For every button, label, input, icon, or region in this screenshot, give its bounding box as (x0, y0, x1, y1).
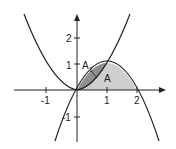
y-tick-label: 2 (66, 33, 72, 44)
y-tick-label: -1 (62, 112, 71, 123)
x-tick-label: 1 (104, 95, 110, 106)
y-axis-arrow-icon (74, 14, 80, 21)
region-a-label: A (104, 73, 111, 84)
region-a1-label: A (82, 60, 89, 71)
function-graph: -1 1 2 2 1 -1 A 1 A (0, 0, 176, 149)
x-tick-label: 2 (134, 95, 140, 106)
x-tick-label: -1 (41, 95, 50, 106)
x-axis-arrow-icon (159, 87, 166, 93)
y-tick-label: 1 (66, 60, 72, 71)
